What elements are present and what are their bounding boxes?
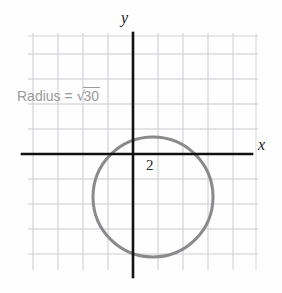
y-axis-label: y — [121, 9, 128, 27]
radius-annotation-prefix: Radius = — [17, 88, 77, 104]
axis-lines — [22, 33, 252, 277]
grid-lines-vertical — [33, 33, 256, 270]
point-value-label: 2 — [146, 157, 154, 174]
radius-annotation: Radius = √30 — [17, 88, 100, 104]
figure-canvas: y x 2 Radius = √30 — [0, 0, 282, 293]
x-axis-label: x — [258, 136, 265, 154]
radius-annotation-value: 30 — [83, 87, 100, 104]
grid-lines-horizontal — [28, 36, 258, 254]
coordinate-plane-svg — [0, 0, 282, 293]
